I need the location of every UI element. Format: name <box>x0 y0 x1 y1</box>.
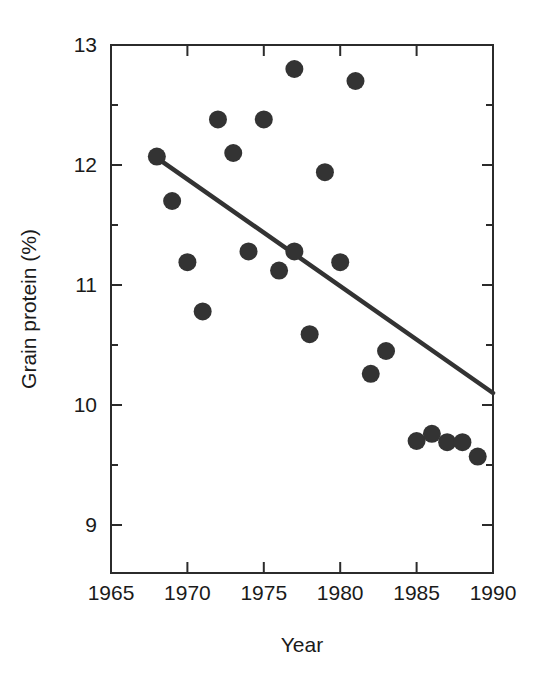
data-point <box>301 325 319 343</box>
data-point <box>408 432 426 450</box>
y-tick-label: 12 <box>74 153 97 176</box>
figure-background <box>0 0 540 680</box>
y-axis-title: Grain protein (%) <box>17 229 40 389</box>
data-point <box>255 110 273 128</box>
y-tick-label: 11 <box>75 273 97 296</box>
x-tick-label: 1970 <box>164 581 211 604</box>
data-point <box>240 242 258 260</box>
y-tick-label: 9 <box>85 513 97 536</box>
data-point <box>194 302 212 320</box>
data-point <box>377 342 395 360</box>
y-tick-label: 13 <box>74 33 97 56</box>
data-point <box>224 144 242 162</box>
data-point <box>270 262 288 280</box>
data-point <box>423 425 441 443</box>
data-point <box>178 253 196 271</box>
data-point <box>453 433 471 451</box>
scatter-plot-svg: 910111213 196519701975198019851990 Year … <box>0 0 540 680</box>
data-point <box>209 110 227 128</box>
data-point <box>285 242 303 260</box>
data-point <box>469 448 487 466</box>
data-point <box>316 163 334 181</box>
data-point <box>163 192 181 210</box>
data-point <box>331 253 349 271</box>
x-tick-label: 1990 <box>470 581 517 604</box>
x-tick-label: 1965 <box>88 581 135 604</box>
x-tick-label: 1985 <box>393 581 440 604</box>
data-point <box>362 365 380 383</box>
y-tick-label: 10 <box>74 393 97 416</box>
data-point <box>285 60 303 78</box>
x-axis-title: Year <box>281 633 323 656</box>
data-point <box>346 72 364 90</box>
x-tick-label: 1980 <box>317 581 364 604</box>
x-tick-label: 1975 <box>240 581 287 604</box>
chart-figure: 910111213 196519701975198019851990 Year … <box>0 0 540 680</box>
data-point <box>148 148 166 166</box>
